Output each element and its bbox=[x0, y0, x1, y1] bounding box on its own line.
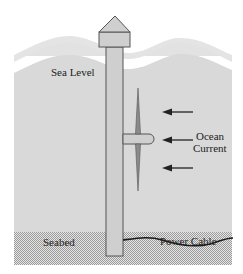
roof bbox=[99, 16, 130, 32]
top-housing bbox=[99, 32, 130, 47]
power-cable-label: Power Cable bbox=[160, 235, 217, 247]
ocean-current-label-1: Ocean bbox=[196, 130, 224, 142]
seabed-label: Seabed bbox=[43, 236, 75, 248]
ocean-current-label-2: Current bbox=[193, 142, 227, 154]
nacelle bbox=[123, 134, 154, 144]
sea-level-label: Sea Level bbox=[51, 66, 95, 78]
monopile bbox=[106, 47, 123, 256]
